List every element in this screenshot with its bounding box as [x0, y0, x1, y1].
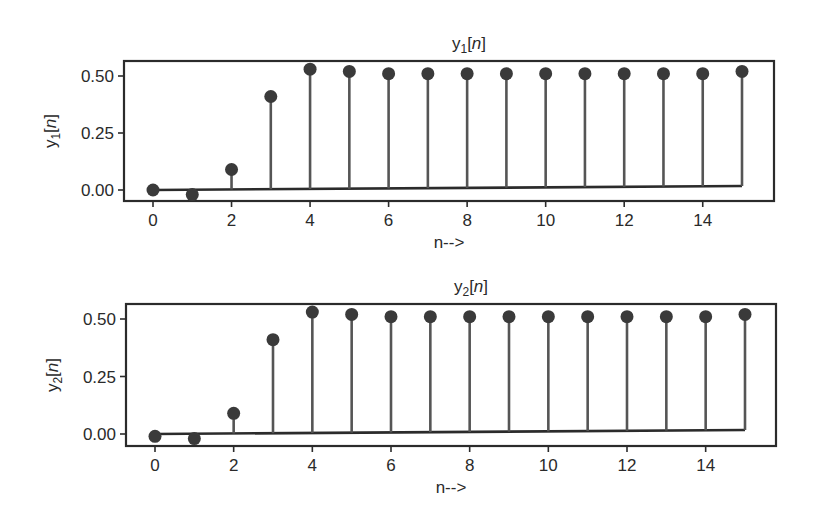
y-tick-label: 0.00	[81, 181, 114, 200]
y-tick-label: 0.50	[81, 67, 114, 86]
stem-marker	[739, 308, 752, 321]
x-tick-label: 8	[462, 211, 471, 230]
stem-marker	[385, 310, 398, 323]
x-tick-label: 12	[615, 211, 634, 230]
x-tick-label: 10	[539, 456, 558, 475]
stem-marker	[186, 188, 199, 201]
y-axis-label: y2[n]	[43, 358, 65, 392]
y-tick-label: 0.25	[81, 124, 114, 143]
stem-marker	[149, 430, 162, 443]
stem-marker	[699, 310, 712, 323]
y-tick-label: 0.50	[83, 310, 116, 329]
stem-plot-y2: y2[n]0.000.250.50y2[n]02468101214n-->	[43, 277, 776, 497]
stem-marker	[264, 90, 277, 103]
plot-frame	[124, 61, 774, 201]
stem-marker	[542, 310, 555, 323]
x-axis-label: n-->	[434, 233, 465, 252]
stem-marker	[343, 65, 356, 78]
stem-marker	[539, 67, 552, 80]
y-tick-label: 0.00	[83, 425, 116, 444]
stem-marker	[578, 67, 591, 80]
x-tick-label: 8	[465, 456, 474, 475]
stem-marker	[304, 63, 317, 76]
plot-title: y2[n]	[454, 277, 488, 299]
stem-marker	[621, 310, 634, 323]
stem-marker	[227, 407, 240, 420]
stem-marker	[503, 310, 516, 323]
x-tick-label: 4	[308, 456, 317, 475]
x-tick-label: 10	[536, 211, 555, 230]
stem-marker	[188, 432, 201, 445]
x-tick-label: 0	[150, 456, 159, 475]
stem-baseline	[155, 430, 745, 434]
x-tick-label: 14	[693, 211, 712, 230]
stem-marker	[424, 310, 437, 323]
x-tick-label: 14	[696, 456, 715, 475]
stem-marker	[147, 184, 160, 197]
x-tick-label: 2	[229, 456, 238, 475]
x-tick-label: 4	[305, 211, 314, 230]
x-tick-label: 6	[386, 456, 395, 475]
stem-marker	[463, 310, 476, 323]
stem-marker	[500, 67, 513, 80]
stem-marker	[657, 67, 670, 80]
stem-marker	[421, 67, 434, 80]
stem-marker	[696, 67, 709, 80]
stem-plots-figure: y1[n]0.000.250.50y1[n]02468101214n--> y2…	[0, 0, 814, 518]
stem-baseline	[153, 186, 742, 190]
stem-marker	[736, 65, 749, 78]
x-tick-label: 6	[384, 211, 393, 230]
stem-marker	[306, 306, 319, 319]
x-tick-label: 0	[148, 211, 157, 230]
stem-marker	[267, 333, 280, 346]
stem-marker	[581, 310, 594, 323]
x-tick-label: 12	[618, 456, 637, 475]
stem-marker	[345, 308, 358, 321]
stem-marker	[618, 67, 631, 80]
plot-frame	[126, 304, 776, 446]
y-tick-label: 0.25	[83, 368, 116, 387]
stem-marker	[660, 310, 673, 323]
stem-marker	[225, 163, 238, 176]
stem-plot-y1: y1[n]0.000.250.50y1[n]02468101214n-->	[41, 34, 774, 252]
stem-marker	[461, 67, 474, 80]
stem-marker	[382, 67, 395, 80]
x-tick-label: 2	[227, 211, 236, 230]
x-axis-label: n-->	[436, 478, 467, 497]
y-axis-label: y1[n]	[41, 114, 63, 148]
plot-title: y1[n]	[452, 34, 486, 56]
